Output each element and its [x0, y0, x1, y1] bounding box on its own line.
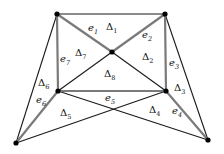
edge-label-e3: e3: [169, 57, 179, 71]
triangle-label-3: Δ3: [174, 82, 185, 96]
vertex-B: [162, 11, 167, 16]
triangle-label-6: Δ6: [38, 77, 49, 91]
vertex-E: [163, 88, 168, 93]
triangle-label-4: Δ4: [149, 104, 160, 118]
vertex-C: [109, 49, 114, 54]
edge-label-e2: e2: [142, 29, 152, 43]
triangle-label-7: Δ7: [75, 47, 86, 61]
triangle-label-8: Δ8: [104, 68, 115, 82]
triangle-label-5: Δ5: [60, 107, 71, 121]
edge-label-e7: e7: [60, 53, 71, 67]
edge-e1: [57, 14, 112, 52]
edge-e7: [57, 14, 58, 91]
edge-label-e6: e6: [36, 94, 46, 108]
edge-B-G: [165, 14, 208, 140]
triangle-label-1: Δ1: [106, 21, 117, 35]
vertex-A: [54, 11, 59, 16]
edge-C-E: [112, 52, 166, 91]
edge-D-G: [58, 91, 208, 140]
edge-label-e5: e5: [105, 92, 115, 106]
edge-e3: [165, 14, 166, 91]
edge-label-e1: e1: [88, 22, 98, 36]
vertex-D: [55, 88, 60, 93]
triangle-labels: Δ1Δ2Δ3Δ4Δ5Δ6Δ7Δ8: [38, 21, 185, 121]
triangulation-diagram: e1e2e3e4e5e6e7 Δ1Δ2Δ3Δ4Δ5Δ6Δ7Δ8: [0, 0, 224, 154]
vertex-G: [205, 137, 210, 142]
edge-A-F: [16, 14, 57, 143]
vertex-F: [13, 140, 18, 145]
edge-e2: [112, 14, 165, 52]
triangle-label-2: Δ2: [142, 51, 153, 65]
